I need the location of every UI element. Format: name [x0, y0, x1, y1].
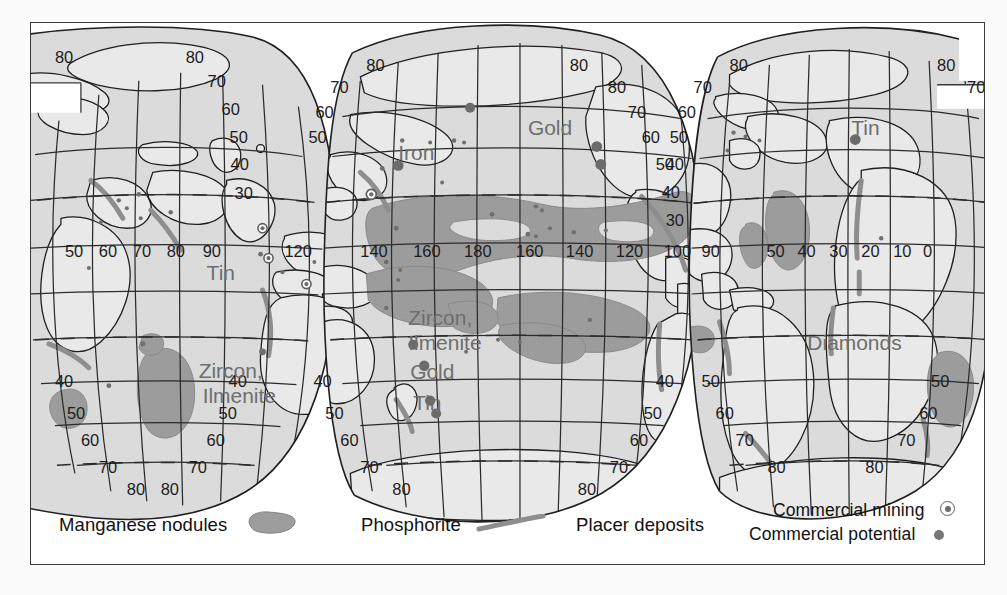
svg-text:60: 60	[222, 100, 240, 118]
svg-text:60: 60	[678, 103, 696, 121]
svg-text:80: 80	[570, 56, 588, 74]
svg-text:70: 70	[628, 103, 646, 121]
svg-text:120: 120	[616, 242, 643, 260]
svg-text:140: 140	[360, 242, 387, 260]
svg-text:40: 40	[231, 155, 249, 173]
legend-item-phosphorite: Phosphorite	[361, 514, 547, 536]
map-legend: Manganese nodules Phosphorite Placer dep…	[31, 486, 984, 564]
legend-label-commercial-mining: Commercial mining	[773, 500, 924, 520]
map-svg: 80 80 70 60 50 40 30 40 50 60 70 80 40 5…	[31, 23, 984, 564]
legend-item-manganese-nodules: Manganese nodules	[59, 514, 298, 540]
svg-text:180: 180	[464, 242, 491, 260]
legend-label-phosphorite: Phosphorite	[361, 514, 461, 535]
svg-text:80: 80	[730, 56, 748, 74]
svg-text:50: 50	[931, 372, 949, 390]
svg-text:30: 30	[235, 184, 253, 202]
svg-text:60: 60	[716, 404, 734, 422]
figure-frame: 80 80 70 60 50 40 30 40 50 60 70 80 40 5…	[30, 22, 985, 565]
svg-text:70: 70	[610, 458, 628, 476]
map-label-diamonds: Diamonds	[807, 331, 901, 354]
svg-text:50: 50	[766, 242, 784, 260]
svg-text:100: 100	[664, 242, 691, 260]
svg-text:60: 60	[99, 242, 117, 260]
svg-text:50: 50	[308, 128, 326, 146]
map-label-tin-left: Tin	[207, 261, 235, 284]
svg-text:70: 70	[694, 78, 712, 96]
crop-notch	[959, 23, 984, 81]
svg-text:80: 80	[865, 458, 883, 476]
commercial-mining-ringed-dot-icon	[937, 501, 959, 520]
svg-text:70: 70	[189, 458, 207, 476]
manganese-nodules-swatch-icon	[242, 509, 298, 535]
map-label-gold-south: Gold	[410, 360, 454, 383]
map-label-gold-north: Gold	[528, 116, 572, 139]
map-label-tin-center: Tin	[413, 391, 441, 414]
svg-text:30: 30	[666, 211, 684, 229]
map-label-zircon-left: Zircon,	[199, 359, 263, 382]
svg-text:50: 50	[230, 128, 248, 146]
svg-text:70: 70	[967, 78, 984, 96]
svg-text:80: 80	[167, 242, 185, 260]
crop-notch-left	[31, 83, 81, 113]
svg-text:160: 160	[516, 242, 543, 260]
svg-text:70: 70	[99, 458, 117, 476]
svg-text:160: 160	[413, 242, 440, 260]
map-label-ilmenite-left: Ilmenite	[203, 384, 276, 407]
legend-label-manganese-nodules: Manganese nodules	[59, 514, 227, 535]
svg-text:60: 60	[340, 431, 358, 449]
legend-label-commercial-potential: Commercial potential	[749, 524, 915, 544]
svg-text:90: 90	[702, 242, 720, 260]
svg-text:70: 70	[208, 72, 226, 90]
svg-text:60: 60	[642, 128, 660, 146]
svg-text:60: 60	[630, 431, 648, 449]
commercial-potential-solid-dot-icon	[928, 526, 950, 544]
svg-text:80: 80	[366, 56, 384, 74]
legend-label-placer-deposits: Placer deposits	[576, 514, 704, 535]
svg-text:50: 50	[325, 404, 343, 422]
phosphorite-swatch-icon	[475, 514, 547, 532]
svg-text:80: 80	[767, 458, 785, 476]
svg-text:60: 60	[919, 404, 937, 422]
world-map: 80 80 70 60 50 40 30 40 50 60 70 80 40 5…	[31, 23, 984, 564]
svg-text:40: 40	[797, 242, 815, 260]
svg-text:10: 10	[893, 242, 911, 260]
svg-text:50: 50	[670, 128, 688, 146]
svg-text:30: 30	[829, 242, 847, 260]
svg-text:70: 70	[897, 431, 915, 449]
svg-text:90: 90	[203, 242, 221, 260]
svg-text:80: 80	[937, 56, 955, 74]
map-label-ilmenite-center: Ilmenite	[408, 331, 481, 354]
svg-text:80: 80	[186, 48, 204, 66]
svg-text:80: 80	[608, 78, 626, 96]
svg-text:70: 70	[330, 78, 348, 96]
svg-text:40: 40	[313, 372, 331, 390]
svg-text:70: 70	[360, 458, 378, 476]
svg-text:50: 50	[702, 372, 720, 390]
svg-text:40: 40	[666, 155, 684, 173]
svg-text:120: 120	[284, 242, 311, 260]
svg-text:20: 20	[861, 242, 879, 260]
svg-text:50: 50	[644, 404, 662, 422]
svg-text:40: 40	[656, 372, 674, 390]
svg-text:60: 60	[81, 431, 99, 449]
svg-text:70: 70	[133, 242, 151, 260]
map-label-zircon-center: Zircon,	[408, 306, 472, 329]
svg-text:0: 0	[923, 242, 932, 260]
legend-item-placer-deposits: Placer deposits	[576, 514, 704, 536]
map-label-tin-right: Tin	[851, 116, 879, 139]
svg-text:70: 70	[736, 431, 754, 449]
legend-item-commercial-potential: Commercial potential	[749, 524, 950, 545]
svg-text:60: 60	[207, 431, 225, 449]
svg-text:40: 40	[662, 183, 680, 201]
lobe-left	[31, 23, 370, 531]
legend-item-commercial-mining: Commercial mining	[773, 500, 959, 521]
svg-text:50: 50	[67, 404, 85, 422]
svg-text:80: 80	[55, 48, 73, 66]
svg-text:40: 40	[55, 372, 73, 390]
svg-text:60: 60	[315, 103, 333, 121]
svg-text:50: 50	[65, 242, 83, 260]
svg-text:140: 140	[566, 242, 593, 260]
map-label-iron: Iron	[398, 142, 434, 165]
page-background: 80 80 70 60 50 40 30 40 50 60 70 80 40 5…	[0, 0, 1007, 595]
